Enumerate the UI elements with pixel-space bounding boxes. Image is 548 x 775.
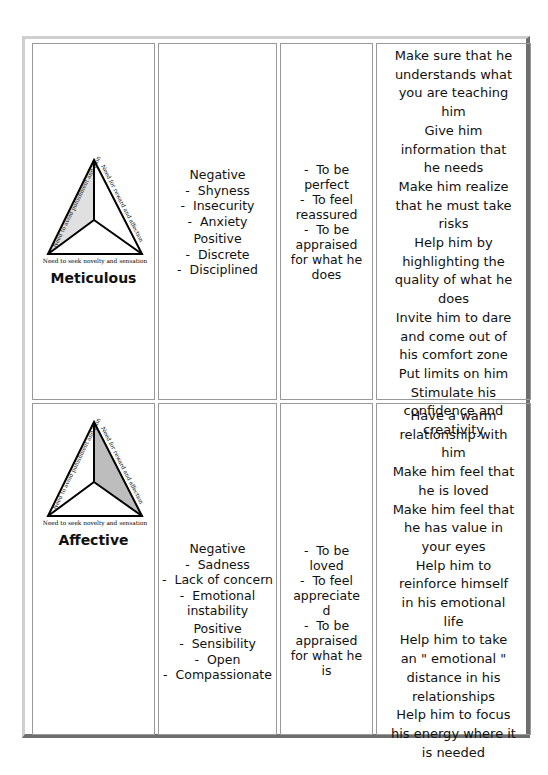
tip-line: distance in his xyxy=(407,669,501,688)
positive-heading: Positive xyxy=(193,231,241,247)
need-item: - To be xyxy=(304,543,349,558)
tip-line: Have a warm xyxy=(410,407,496,426)
tip-line: quality of what he xyxy=(395,271,513,290)
tip-line: that he must take xyxy=(396,197,512,216)
need-item-cont: for what he xyxy=(291,252,362,267)
tip-line: understands what xyxy=(395,66,512,85)
tips-cell: Make sure that he understands what you a… xyxy=(376,43,531,400)
trait-item: - Discrete xyxy=(185,247,249,263)
tip-line: in his emotional xyxy=(402,594,506,613)
trait-item: - Anxiety xyxy=(188,214,248,230)
tip-line: is needed xyxy=(422,744,485,763)
tip-line: Stimulate his xyxy=(411,384,496,403)
need-item: - To be xyxy=(304,162,349,177)
tip-line: him xyxy=(441,103,466,122)
needs-cell: - To be loved - To feel appreciate d - T… xyxy=(280,403,373,735)
tip-line: he has value in xyxy=(404,519,503,538)
trait-item: - Disciplined xyxy=(177,262,258,278)
profile-cell-meticulous: Need to avoid punishment and pain Need f… xyxy=(32,43,155,400)
need-item-cont: loved xyxy=(309,558,343,573)
tip-line: Make him feel that xyxy=(393,463,515,482)
diagram-right-label: Need for reward and affection xyxy=(100,164,145,244)
tip-line: reinforce himself xyxy=(399,575,508,594)
trait-item: - Compassionate xyxy=(163,667,272,683)
trait-item: - Insecurity xyxy=(181,198,255,214)
need-item-cont: reassured xyxy=(296,207,358,222)
tip-line: Put limits on him xyxy=(399,365,508,384)
diagram-bottom-label: Need to seek novelty and sensation xyxy=(42,520,147,527)
tip-line: he is loved xyxy=(418,482,488,501)
tip-line: Help him by xyxy=(414,234,492,253)
tip-line: he needs xyxy=(424,159,484,178)
need-item-cont: is xyxy=(322,663,332,678)
need-item: - To be xyxy=(304,222,349,237)
need-item-cont: appraised xyxy=(296,633,358,648)
tips-cell: Have a warm relationship with him Make h… xyxy=(376,403,531,735)
need-item-cont: d xyxy=(323,603,331,618)
tip-line: life xyxy=(444,613,464,632)
tip-line: Make him realize xyxy=(398,178,508,197)
positive-heading: Positive xyxy=(193,621,241,637)
need-item-cont: for what he xyxy=(291,648,362,663)
profile-table-frame: Need to avoid punishment and pain Need f… xyxy=(22,36,530,738)
tip-line: Make sure that he xyxy=(395,47,512,66)
tip-line: you are teaching xyxy=(399,84,509,103)
need-item-cont: appreciate xyxy=(293,588,360,603)
tip-line: Make him feel that xyxy=(393,501,515,520)
temperament-triangle-diagram: Need to avoid punishment and pain Need f… xyxy=(35,156,153,268)
negative-heading: Negative xyxy=(189,167,245,183)
profile-name: Affective xyxy=(58,532,128,549)
temperament-triangle-diagram: Need to avoid punishment and pain Need f… xyxy=(35,418,153,530)
tip-line: an " emotional " xyxy=(401,650,507,669)
tip-line: Help him to xyxy=(416,557,491,576)
tip-line: relationship with xyxy=(399,426,507,445)
need-item-cont: appraised xyxy=(296,237,358,252)
trait-item: - Sadness xyxy=(185,557,250,573)
tip-line: Help him to focus xyxy=(396,706,510,725)
tip-line: information that xyxy=(401,141,507,160)
need-item: - To feel xyxy=(300,192,353,207)
negative-heading: Negative xyxy=(189,541,245,557)
trait-item: - Open xyxy=(195,652,241,668)
needs-cell: - To be perfect - To feel reassured - To… xyxy=(280,43,373,400)
profile-cell-affective: Need to avoid punishment and pain Need f… xyxy=(32,403,155,735)
tip-line: your eyes xyxy=(422,538,486,557)
tip-line: him xyxy=(441,444,466,463)
tip-line: Give him xyxy=(424,122,482,141)
tip-line: relationships xyxy=(412,688,495,707)
traits-cell: Negative - Shyness - Insecurity - Anxiet… xyxy=(158,43,277,400)
tip-line: his energy where it xyxy=(391,725,516,744)
tip-line: Invite him to dare xyxy=(396,309,512,328)
trait-item: - Lack of concern xyxy=(162,572,273,588)
profile-name: Meticulous xyxy=(51,270,137,287)
need-item: - To feel xyxy=(300,573,353,588)
tip-line: highlighting the xyxy=(402,253,505,272)
tip-line: Help him to take xyxy=(400,631,508,650)
need-item: - To be xyxy=(304,618,349,633)
need-item-cont: perfect xyxy=(304,177,349,192)
trait-item: - Shyness xyxy=(185,183,249,199)
profile-table: Need to avoid punishment and pain Need f… xyxy=(32,43,522,730)
tip-line: risks xyxy=(438,215,468,234)
diagram-bottom-label: Need to seek novelty and sensation xyxy=(42,258,147,265)
trait-item: - Emotional instability xyxy=(173,588,263,619)
tip-line: his comfort zone xyxy=(399,346,508,365)
tip-line: does xyxy=(438,290,469,309)
trait-item: - Sensibility xyxy=(179,636,256,652)
tip-line: and come out of xyxy=(400,328,506,347)
need-item-cont: does xyxy=(312,267,342,282)
traits-cell: Negative - Sadness - Lack of concern - E… xyxy=(158,403,277,735)
